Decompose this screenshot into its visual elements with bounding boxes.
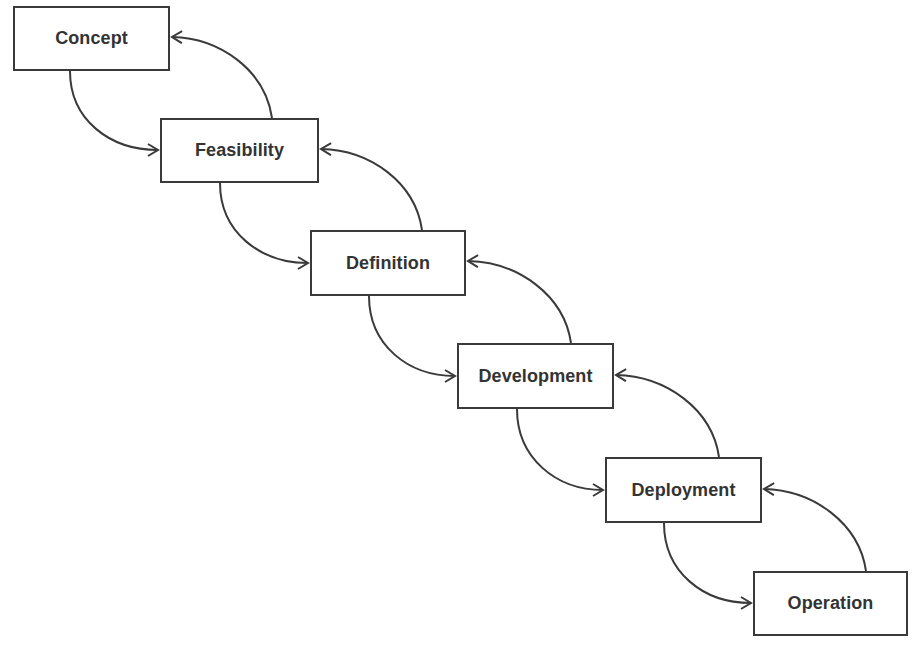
backward-arrow-operation-deployment xyxy=(764,489,866,571)
stage-deployment: Deployment xyxy=(605,457,762,523)
stage-label: Deployment xyxy=(631,480,735,501)
backward-arrow-deployment-development xyxy=(616,375,719,457)
connector-arrows xyxy=(0,0,919,649)
backward-arrow-feasibility-concept xyxy=(172,37,272,118)
stage-definition: Definition xyxy=(310,230,466,296)
forward-arrow-concept-feasibility xyxy=(70,71,158,150)
stage-label: Operation xyxy=(788,593,874,614)
stage-feasibility: Feasibility xyxy=(160,118,319,183)
forward-arrow-feasibility-definition xyxy=(220,183,308,263)
stage-label: Feasibility xyxy=(195,140,284,161)
stage-label: Definition xyxy=(346,253,430,274)
stage-label: Development xyxy=(478,366,592,387)
forward-arrow-definition-development xyxy=(369,296,455,376)
backward-arrow-development-definition xyxy=(468,261,571,343)
stage-concept: Concept xyxy=(13,6,170,71)
stage-operation: Operation xyxy=(753,571,908,636)
waterfall-diagram: Concept Feasibility Definition Developme… xyxy=(0,0,919,649)
stage-label: Concept xyxy=(55,28,128,49)
backward-arrow-definition-feasibility xyxy=(321,149,422,230)
forward-arrow-deployment-operation xyxy=(664,523,751,603)
stage-development: Development xyxy=(457,343,614,409)
forward-arrow-development-deployment xyxy=(517,409,603,490)
